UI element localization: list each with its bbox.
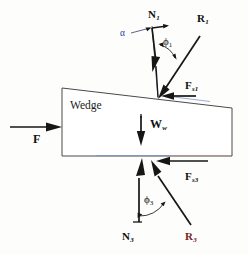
normal-force-top-tick-head <box>163 24 169 28</box>
friction-bottom-arrowhead <box>156 157 170 165</box>
resultant-bottom-shaft <box>158 176 191 225</box>
wedge-free-body-diagram: N1 R1 α ϕ1 Fs1 Wedge F Ww Fs3 ϕ3 N3 R3 <box>0 0 248 255</box>
friction-bottom-label: Fs3 <box>185 171 199 182</box>
phi3-arc-head-left <box>138 213 143 218</box>
wedge-body-label: Wedge <box>70 100 102 112</box>
alpha-angle-label: α <box>120 29 125 39</box>
normal-force-top-label: N1 <box>148 9 160 20</box>
phi1-angle-label: ϕ1 <box>163 36 172 47</box>
resultant-bottom-label: R3 <box>185 231 197 242</box>
applied-force-label: F <box>33 133 41 145</box>
normal-force-bottom-arrowhead <box>136 158 145 176</box>
resultant-bottom-arrowhead <box>151 160 161 176</box>
resultant-top-label: R1 <box>197 13 209 24</box>
phi3-angle-label: ϕ3 <box>144 194 153 205</box>
normal-force-bottom-label: N3 <box>122 231 134 242</box>
weight-label: Ww <box>150 118 167 130</box>
phi3-arc-head-right <box>161 201 166 206</box>
applied-force-arrowhead <box>46 123 62 132</box>
alpha-pointer-head <box>146 27 152 31</box>
top-edge-tint <box>170 97 210 102</box>
friction-top-label: Fs1 <box>185 80 199 91</box>
